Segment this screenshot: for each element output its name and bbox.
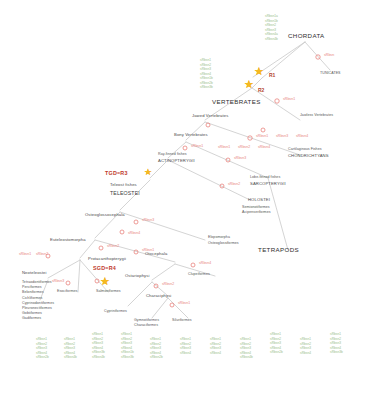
gene-loss-label-osteo: sRbsn3 [142, 218, 154, 222]
gene-loss-label-otoceph: sRbsn1 [142, 248, 154, 252]
gene-name: sRbsn1 [300, 337, 311, 342]
gene-loss-label-proto-1: sRbsn1 [19, 252, 31, 256]
gene-loss-label-clupei: sRbsn4 [199, 261, 211, 265]
gene-name: sRbsn2 [265, 23, 278, 28]
gene-name: sRbsn4b [92, 355, 105, 360]
gene-name: sRbsn3b [200, 85, 213, 90]
gene-name: sRbsn3 [300, 346, 311, 351]
gene-name: sRbsn1 [36, 337, 49, 342]
gene-name: sRbsn4b [64, 355, 77, 360]
loss-marker-otocephala [134, 250, 138, 254]
gene-column: sRbsn1sRbsn2sRbsn3sRbsn4sRbsn2b [36, 337, 49, 360]
gene-name: sRbsn1a [265, 14, 278, 19]
gene-name: sRbsn3 [330, 341, 343, 346]
gene-name: sRbsn4b [265, 37, 278, 42]
gene-column: sRbsn1sRbsn2sRbsn3sRbsn4sRbsn2b [150, 337, 163, 360]
gene-name: sRbsn1 [210, 337, 221, 342]
gene-name: sRbsn4 [300, 351, 311, 356]
loss-marker-euteleostomorpha [99, 246, 103, 250]
gene-loss-label-bony-2: sRbsn2 [238, 145, 250, 149]
gene-loss-label-eutel: sRbsn2 [107, 244, 119, 248]
loss-marker-neoteleostei [66, 281, 70, 285]
loss-marker-jawed [206, 123, 210, 127]
loss-marker-tunicate [316, 55, 320, 59]
gene-name: sRbsn3 [210, 346, 221, 351]
gene-name: sRbsn3 [270, 341, 283, 346]
gene-name: sRbsn2b [36, 355, 49, 360]
loss-marker-osteoglossocephala [134, 220, 138, 224]
loss-marker-holostei [220, 184, 224, 188]
gene-name: sRbsn3 [36, 346, 49, 351]
gene-loss-label-proto-2: sRbsn2 [36, 252, 48, 256]
loss-marker-clupeiformes [191, 263, 195, 267]
loss-marker-bony [261, 128, 265, 132]
gene-name: sRbsn1 [150, 337, 163, 342]
gene-loss-label-tunicate: sRbsn [324, 53, 334, 57]
gene-name: sRbsn1 [121, 332, 134, 337]
gene-loss-label-sarco: sRbsn3 [234, 156, 246, 160]
gene-name: sRbsn1 [92, 332, 105, 337]
gene-column: sRbsn1sRbsn2sRbsn3sRbsn4sRbsn4b [240, 337, 253, 360]
gene-name: sRbsn3 [240, 346, 253, 351]
gene-loss-label-characi: sRbsn1 [178, 301, 190, 305]
gene-column: sRbsn1sRbsn2sRbsn3sRbsn4sRbsn1bsRbsn3b [121, 332, 134, 359]
gene-loss-label-ostario: sRbsn2 [162, 282, 174, 286]
loss-marker-jawless [275, 99, 279, 103]
loss-marker-characiphysi [170, 303, 174, 307]
gene-loss-label-holostei: sRbsn2 [228, 182, 240, 186]
gene-loss-label-teleost: sRbsn4 [128, 231, 140, 235]
gene-loss-label-chondr-3: sRbsn4 [296, 134, 308, 138]
gene-column: sRbsn1asRbsn1bsRbsn2sRbsn3sRbsn4asRbsn4b [265, 14, 278, 41]
gene-column: sRbsn1sRbsn2sRbsn3sRbsn4 [210, 337, 221, 355]
loss-marker-ostariophysi [154, 284, 158, 288]
gene-name: sRbsn4 [210, 351, 221, 356]
gene-loss-label-jawless: sRbsn1 [283, 97, 295, 101]
gene-name: sRbsn3 [150, 346, 163, 351]
gene-name: sRbsn2b [150, 355, 163, 360]
gene-loss-label-bony-1: sRbsn1 [218, 145, 230, 149]
gene-loss-label-neotel: sRbsn3 [52, 279, 64, 283]
loss-marker-sarcopterygii [226, 158, 230, 162]
gene-column: sRbsn1sRbsn2sRbsn3sRbsn4 [300, 337, 311, 355]
gene-column: sRbsn1sRbsn2sRbsn3sRbsn4sRbsn2b [270, 332, 283, 355]
gene-name: sRbsn3 [121, 341, 134, 346]
gene-column: sRbsn1sRbsn2sRbsn3sRbsn4 [180, 337, 191, 355]
gene-column: sRbsn1sRbsn2sRbsn3sRbsn4sRbsn3b [330, 332, 343, 355]
gene-column: sRbsn1sRbsn2sRbsn3sRbsn4sRbsn3bsRbsn4b [92, 332, 105, 359]
gene-name: sRbsn3 [64, 346, 77, 351]
gene-name: sRbsn3b [121, 355, 134, 360]
gene-name: sRbsn3 [92, 341, 105, 346]
loss-marker-chondrichthyans [248, 136, 252, 140]
gene-loss-label-chondr-1: sRbsn1 [256, 134, 268, 138]
loss-marker-actinopterygii [183, 146, 187, 150]
gene-name: sRbsn3b [330, 350, 343, 355]
loss-marker-elopomorpha [120, 230, 124, 234]
gene-name: sRbsn1 [180, 337, 191, 342]
gene-name: sRbsn1 [64, 337, 77, 342]
loss-marker-proto-2 [95, 279, 99, 283]
gene-name: sRbsn4b [240, 355, 253, 360]
gene-name: sRbsn1 [240, 337, 253, 342]
gene-loss-label-bony-3: sRbsn4 [258, 145, 270, 149]
gene-name: sRbsn4 [180, 351, 191, 356]
gene-column: sRbsn1sRbsn2sRbsn3sRbsn4sRbsn1bsRbsn2bsR… [200, 58, 213, 90]
gene-name: sRbsn1 [330, 332, 343, 337]
gene-name: sRbsn3 [200, 67, 213, 72]
gene-loss-label-actino: sRbsn1 [191, 144, 203, 148]
gene-name: sRbsn1 [200, 58, 213, 63]
gene-name: sRbsn3 [180, 346, 191, 351]
gene-name: sRbsn1 [270, 332, 283, 337]
gene-column: sRbsn1sRbsn2sRbsn3sRbsn4sRbsn4b [64, 337, 77, 360]
gene-name: sRbsn2b [270, 350, 283, 355]
gene-loss-label-chondr-2: sRbsn3 [276, 134, 288, 138]
